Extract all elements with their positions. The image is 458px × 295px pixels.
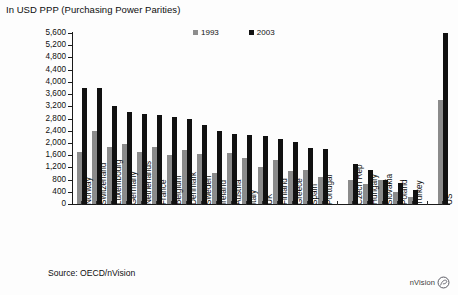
x-axis-tick-label: Portugal [326,175,334,206]
y-axis-tick-label: 5,200 [46,39,67,50]
y-axis-tick-label: 0 [61,198,66,209]
y-axis-tick-label: 5,600 [46,27,67,38]
x-axis-tick-mark [96,201,97,205]
watermark: nVision [410,276,450,289]
x-axis-tick-mark [201,201,202,205]
x-axis-tick-mark [156,201,157,205]
x-axis-tick-mark [382,201,383,205]
x-axis-tick-label: France [160,180,168,205]
watermark-label: nVision [410,278,435,287]
y-axis-tick-mark [68,94,72,95]
chart-page: In USD PPP (Purchasing Power Parities) 1… [0,0,458,295]
y-axis-tick-mark [68,143,72,144]
x-axis-tick-label: Austria [235,180,243,205]
x-axis-tick-label: Poland [401,180,409,206]
y-axis-tick-mark [68,180,72,181]
x-axis-tick-mark [367,201,368,205]
x-axis-tick-label: Slovakia [386,174,394,205]
y-axis-tick-mark [68,192,72,193]
y-axis-tick-mark [68,57,72,58]
y-axis-tick-label: 3,200 [46,100,67,111]
bar-group[interactable] [242,33,252,204]
y-axis-tick-label: 1,200 [46,161,67,172]
x-axis-tick-mark [186,201,187,205]
bar-group[interactable] [212,33,222,204]
x-axis-tick-mark [262,201,263,205]
y-axis-tick-mark [68,70,72,71]
x-axis-tick-mark [442,201,443,205]
y-axis-tick-label: 2,400 [46,125,67,136]
x-axis-tick-mark [397,201,398,205]
x-axis-tick-label: Sweden [205,175,213,205]
x-axis-tick-label: Turkey [416,180,424,205]
x-axis-tick-mark [352,201,353,205]
bar-group[interactable] [438,33,448,204]
y-axis-tick-label: 800 [52,174,66,185]
x-axis-tick-mark [231,201,232,205]
x-axis-tick-label: Germany [130,171,138,205]
y-axis-tick-mark [68,82,72,83]
y-axis-tick-label: 4,400 [46,64,67,75]
circle-swirl-icon [437,276,450,289]
x-axis-tick-label: Spain [311,184,319,205]
x-axis-tick-mark [307,201,308,205]
x-axis-tick-label: Finland [281,178,289,205]
x-axis-tick-label: Hungary [371,174,379,205]
x-axis-tick-mark [126,201,127,205]
x-axis-tick-mark [412,201,413,205]
y-axis-tick-mark [68,204,72,205]
x-axis-tick-label: UK [266,194,274,205]
x-axis-tick-mark [246,201,247,205]
x-axis-tick-label: Czech Rep [356,164,364,205]
x-axis-tick-label: US [446,194,454,205]
bar-group[interactable] [152,33,162,204]
y-axis-tick-label: 1,600 [46,149,67,160]
page-title: In USD PPP (Purchasing Power Parities) [6,4,180,15]
y-axis-tick-label: 4,000 [46,76,67,87]
x-axis-tick-mark [111,201,112,205]
x-axis-tick-label: Denmark [190,172,198,205]
bar-group[interactable] [408,33,418,204]
y-axis-tick-label: 2,000 [46,137,67,148]
source-note: Source: OECD/nVision [48,268,135,278]
x-axis-tick-label: Netherlands [145,161,153,205]
x-axis-tick-mark [322,201,323,205]
x-axis-tick-mark [141,201,142,205]
x-axis-tick-mark [216,201,217,205]
bar-group[interactable] [258,33,268,204]
y-axis-tick-mark [68,106,72,107]
x-axis-tick-mark [277,201,278,205]
y-axis-tick-mark [68,33,72,34]
x-axis-tick-label: Italy [250,190,258,205]
bar-2003[interactable] [443,33,448,204]
x-axis-tick-mark [427,201,428,205]
x-axis-tick-label: Greece [296,178,304,205]
x-axis-tick-mark [171,201,172,205]
x-axis-tick-label: Belgium [175,175,183,205]
x-axis-tick-mark [337,201,338,205]
x-axis-tick-label: Luxembourg [115,159,123,205]
y-axis-tick-mark [68,167,72,168]
y-axis-tick-label: 4,800 [46,51,67,62]
x-axis: NorwaySwitzerlandLuxembourgGermanyNether… [73,205,450,267]
x-axis-tick-mark [81,201,82,205]
y-axis-tick-mark [68,155,72,156]
y-axis-tick-mark [68,45,72,46]
y-axis-tick-label: 3,600 [46,88,67,99]
x-axis-tick-mark [292,201,293,205]
y-axis-tick-mark [68,131,72,132]
x-axis-tick-label: Norway [85,177,93,205]
y-axis-tick-label: 400 [52,186,66,197]
x-axis-tick-label: Ireland [220,180,228,205]
y-axis: 5,6005,2004,8004,4004,0003,6003,2002,800… [0,33,72,204]
y-axis-tick-label: 2,800 [46,113,67,124]
bar-group[interactable] [227,33,237,204]
x-axis-tick-label: Switzerland [100,163,108,205]
y-axis-tick-mark [68,119,72,120]
